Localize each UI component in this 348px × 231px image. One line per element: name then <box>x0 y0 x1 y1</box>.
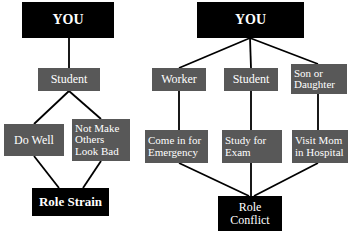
edge-emergency-to-role-conflict <box>179 163 249 196</box>
node-label-role-conflict: Role Conflict <box>230 201 269 226</box>
node-label-you-left: YOU <box>52 13 83 28</box>
edge-do-well-to-role-strain <box>34 156 59 188</box>
edge-student-to-not-make-others <box>69 91 101 119</box>
edge-you-to-son-or-daughter <box>250 38 318 64</box>
edge-you-to-worker <box>179 38 250 68</box>
node-role-conflict[interactable]: Role Conflict <box>218 196 282 231</box>
node-label-son-or-daughter: Son or Daughter <box>294 68 335 91</box>
node-label-student-left: Student <box>51 73 88 85</box>
diagram-canvas: YOUStudentDo WellNot Make Others Look Ba… <box>0 0 348 231</box>
node-label-you-right: YOU <box>235 13 266 28</box>
node-role-strain[interactable]: Role Strain <box>32 188 109 216</box>
node-you-right[interactable]: YOU <box>197 2 304 38</box>
edge-not-make-others-to-role-strain <box>83 161 101 188</box>
node-label-student-right: Student <box>233 73 270 85</box>
node-not-make-others-look-bad[interactable]: Not Make Others Look Bad <box>72 119 130 161</box>
node-student-right[interactable]: Student <box>224 68 278 91</box>
node-do-well[interactable]: Do Well <box>4 124 64 156</box>
node-you-left[interactable]: YOU <box>22 2 114 38</box>
node-label-study-for-exam: Study for Exam <box>225 135 266 158</box>
node-son-or-daughter[interactable]: Son or Daughter <box>291 64 347 94</box>
node-label-come-in-for-emergency: Come in for Emergency <box>148 135 201 158</box>
node-label-do-well: Do Well <box>14 134 54 146</box>
node-study-for-exam[interactable]: Study for Exam <box>222 130 282 163</box>
edge-visit-mom-to-role-conflict <box>254 163 318 196</box>
node-label-visit-mom-in-hospital: Visit Mom in Hospital <box>295 135 344 158</box>
node-come-in-for-emergency[interactable]: Come in for Emergency <box>145 130 208 163</box>
edge-student-to-do-well <box>34 91 69 124</box>
node-visit-mom-in-hospital[interactable]: Visit Mom in Hospital <box>292 130 348 163</box>
node-student-left[interactable]: Student <box>38 68 100 91</box>
node-label-worker: Worker <box>161 73 197 85</box>
edge-you-to-student <box>250 38 251 68</box>
node-label-role-strain: Role Strain <box>39 195 102 209</box>
node-worker[interactable]: Worker <box>152 68 206 91</box>
node-label-not-make-others-look-bad: Not Make Others Look Bad <box>75 123 119 157</box>
